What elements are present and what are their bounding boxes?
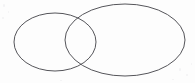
venn-diagram-canvas [0, 0, 195, 83]
diagram-background [0, 0, 195, 83]
venn-diagram-figure [0, 0, 195, 83]
